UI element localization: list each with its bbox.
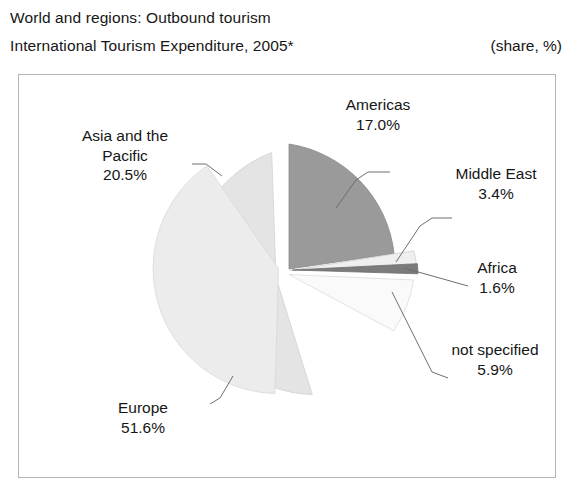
pie-label-americas-value: 17.0% <box>318 115 438 135</box>
pie-label-asia-name-line1: Asia and the <box>60 126 190 146</box>
pie-label-not-specified: not specified 5.9% <box>425 340 565 379</box>
pie-label-middle-east-value: 3.4% <box>430 184 562 204</box>
pie-slice-not-specified[interactable] <box>289 275 414 331</box>
pie-label-africa: Africa 1.6% <box>442 258 552 297</box>
pie-label-americas-name: Americas <box>318 95 438 115</box>
pie-label-americas: Americas 17.0% <box>318 95 438 134</box>
pie-label-asia-name-line2: Pacific <box>60 146 190 166</box>
pie-label-not-specified-value: 5.9% <box>425 360 565 380</box>
pie-label-middle-east: Middle East 3.4% <box>430 164 562 203</box>
pie-label-europe-name: Europe <box>78 398 208 418</box>
pie-label-europe-value: 51.6% <box>78 418 208 438</box>
pie-label-not-specified-name: not specified <box>425 340 565 360</box>
pie-label-africa-name: Africa <box>442 258 552 278</box>
pie-label-asia-value: 20.5% <box>60 165 190 185</box>
pie-slice-americas[interactable] <box>289 144 394 269</box>
pie-label-europe: Europe 51.6% <box>78 398 208 437</box>
pie-label-asia-and-the-pacific: Asia and the Pacific 20.5% <box>60 126 190 185</box>
pie-label-middle-east-name: Middle East <box>430 164 562 184</box>
pie-label-africa-value: 1.6% <box>442 278 552 298</box>
